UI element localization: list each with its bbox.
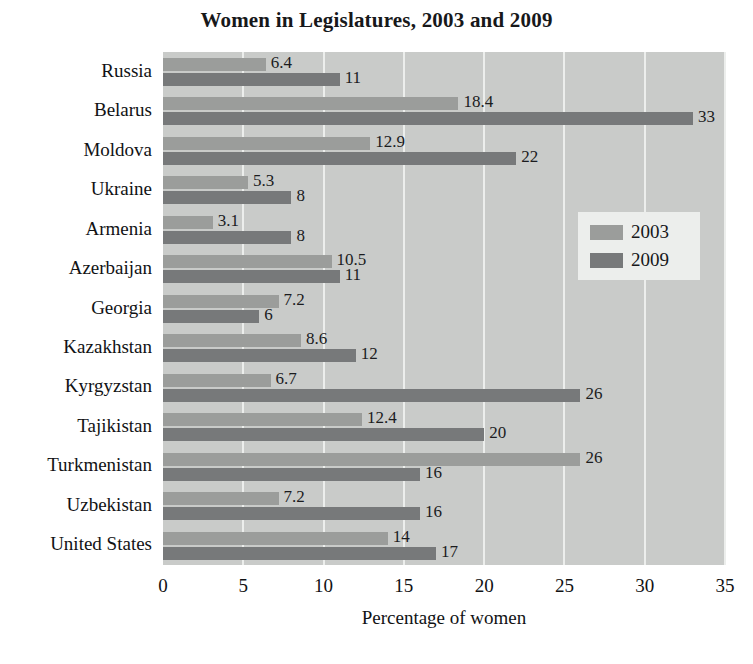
category-label-kyrgyzstan: Kyrgyzstan — [65, 376, 152, 396]
bar-value-label: 8.6 — [306, 332, 327, 345]
bar-2009[interactable] — [163, 191, 291, 204]
bar-value-label: 16 — [425, 466, 442, 479]
bar-value-label: 26 — [585, 387, 602, 400]
bar-2003[interactable] — [163, 137, 370, 150]
category-label-ukraine: Ukraine — [91, 179, 152, 199]
category-label-tajikistan: Tajikistan — [77, 416, 152, 436]
x-tick-30: 30 — [635, 575, 654, 597]
bar-value-label: 17 — [441, 545, 458, 558]
bar-group: 8.612 — [163, 328, 725, 367]
bar-2003[interactable] — [163, 453, 580, 466]
bar-value-label: 14 — [393, 530, 410, 543]
bar-2003[interactable] — [163, 176, 248, 189]
bar-2003[interactable] — [163, 374, 271, 387]
chart-legend: 2003 2009 — [578, 212, 700, 280]
bar-group: 2616 — [163, 447, 725, 486]
bar-value-label: 6.7 — [276, 372, 297, 385]
x-tick-35: 35 — [716, 575, 735, 597]
legend-label-2003: 2003 — [631, 221, 669, 242]
category-label-armenia: Armenia — [86, 219, 152, 239]
x-tick-0: 0 — [158, 575, 168, 597]
bar-value-label: 7.2 — [284, 293, 305, 306]
bars-layer: 6.41118.43312.9225.383.1810.5117.268.612… — [163, 52, 725, 565]
legend-label-2009: 2009 — [631, 249, 669, 270]
bar-2009[interactable] — [163, 270, 340, 283]
category-label-turkmenistan: Turkmenistan — [47, 455, 152, 475]
bar-value-label: 12.4 — [367, 411, 397, 424]
bar-value-label: 7.2 — [284, 490, 305, 503]
bar-value-label: 12 — [361, 347, 378, 360]
bar-2003[interactable] — [163, 295, 279, 308]
bar-value-label: 6 — [264, 308, 273, 321]
category-label-united-states: United States — [50, 534, 152, 554]
value-axis: Percentage of women 05101520253035 — [0, 565, 753, 625]
bar-group: 6.726 — [163, 368, 725, 407]
bar-group: 18.433 — [163, 91, 725, 130]
category-label-kazakhstan: Kazakhstan — [63, 337, 152, 357]
bar-value-label: 11 — [345, 71, 361, 84]
bar-group: 7.26 — [163, 289, 725, 328]
bar-2003[interactable] — [163, 413, 362, 426]
x-axis-title: Percentage of women — [163, 607, 725, 629]
legend-swatch-2009-icon — [590, 253, 623, 268]
x-tick-10: 10 — [314, 575, 333, 597]
category-label-georgia: Georgia — [91, 298, 152, 318]
bar-2003[interactable] — [163, 334, 301, 347]
bar-2003[interactable] — [163, 492, 279, 505]
bar-2009[interactable] — [163, 507, 420, 520]
bar-value-label: 33 — [698, 110, 715, 123]
bar-group: 12.420 — [163, 407, 725, 446]
bar-value-label: 18.4 — [463, 95, 493, 108]
x-tick-15: 15 — [394, 575, 413, 597]
legend-swatch-2003-icon — [590, 225, 623, 240]
category-label-belarus: Belarus — [94, 100, 152, 120]
plot-area: 6.41118.43312.9225.383.1810.5117.268.612… — [163, 52, 725, 565]
bar-group: 12.922 — [163, 131, 725, 170]
bar-group: 6.411 — [163, 52, 725, 91]
x-tick-5: 5 — [239, 575, 249, 597]
bar-2003[interactable] — [163, 97, 458, 110]
bar-value-label: 16 — [425, 505, 442, 518]
bar-2009[interactable] — [163, 73, 340, 86]
bar-2009[interactable] — [163, 310, 259, 323]
bar-value-label: 8 — [296, 229, 305, 242]
bar-2003[interactable] — [163, 532, 388, 545]
x-tick-25: 25 — [555, 575, 574, 597]
bar-2009[interactable] — [163, 349, 356, 362]
bar-value-label: 3.1 — [218, 214, 239, 227]
category-axis: RussiaBelarusMoldovaUkraineArmeniaAzerba… — [0, 52, 158, 565]
category-label-azerbaijan: Azerbaijan — [69, 258, 152, 278]
bar-2003[interactable] — [163, 216, 213, 229]
bar-2009[interactable] — [163, 389, 580, 402]
bar-value-label: 6.4 — [271, 56, 292, 69]
chart-title: Women in Legislatures, 2003 and 2009 — [0, 8, 753, 33]
bar-2009[interactable] — [163, 547, 436, 560]
chart-container: Women in Legislatures, 2003 and 2009 Rus… — [0, 0, 753, 664]
x-tick-20: 20 — [475, 575, 494, 597]
bar-2003[interactable] — [163, 255, 332, 268]
bar-value-label: 12.9 — [375, 135, 405, 148]
bar-value-label: 5.3 — [253, 174, 274, 187]
category-label-moldova: Moldova — [83, 140, 152, 160]
bar-value-label: 20 — [489, 426, 506, 439]
category-label-russia: Russia — [101, 61, 152, 81]
bar-group: 1417 — [163, 526, 725, 565]
bar-group: 7.216 — [163, 486, 725, 525]
bar-2009[interactable] — [163, 231, 291, 244]
bar-value-label: 26 — [585, 451, 602, 464]
category-label-uzbekistan: Uzbekistan — [67, 495, 152, 515]
bar-value-label: 11 — [345, 268, 361, 281]
bar-value-label: 22 — [521, 150, 538, 163]
bar-2003[interactable] — [163, 58, 266, 71]
bar-2009[interactable] — [163, 468, 420, 481]
bar-2009[interactable] — [163, 112, 693, 125]
bar-2009[interactable] — [163, 152, 516, 165]
bar-value-label: 8 — [296, 189, 305, 202]
bar-2009[interactable] — [163, 428, 484, 441]
bar-group: 5.38 — [163, 170, 725, 209]
